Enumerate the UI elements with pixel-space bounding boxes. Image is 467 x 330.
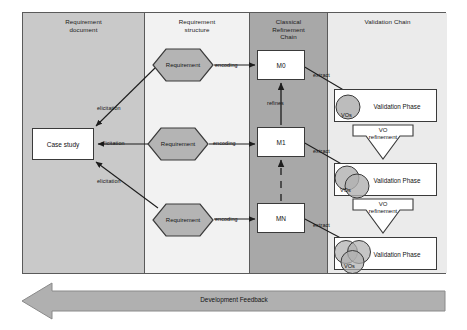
vo-refinement-arrow-1: VO refinement xyxy=(352,124,414,160)
vo-refinement-line1: VO xyxy=(352,201,414,208)
edge-elicitation-top xyxy=(96,68,155,126)
edge-label-encoding-top: encoding xyxy=(215,62,238,68)
validation-phase-3[interactable]: VOs Validation Phase xyxy=(334,237,437,270)
model-box-m0-label: M0 xyxy=(276,62,285,69)
edge-label-elicitation-top: elicitation xyxy=(97,105,121,111)
case-study-box[interactable]: Case study xyxy=(32,128,94,160)
vo-refinement-arrow-1-text: VO refinement xyxy=(352,127,414,142)
requirement-hexagon-1-label: Requirement xyxy=(152,48,214,82)
model-box-m1[interactable]: M1 xyxy=(257,127,305,157)
development-feedback-arrow: Development Feedback xyxy=(22,282,446,320)
validation-phase-2[interactable]: VOs Validation Phase xyxy=(334,163,437,196)
validation-phase-3-label: Validation Phase xyxy=(364,238,430,271)
validation-phase-2-label: Validation Phase xyxy=(364,164,430,197)
edge-label-extract-top: extract xyxy=(313,72,330,78)
edge-label-refines: refines xyxy=(267,100,284,106)
edge-label-extract-mid: extract xyxy=(313,148,330,154)
requirement-hexagon-3[interactable]: Requirement xyxy=(152,203,214,237)
development-feedback-label: Development Feedback xyxy=(22,296,446,303)
vo-refinement-line1: VO xyxy=(352,127,414,134)
vo-cluster-3-label: VOs xyxy=(344,263,355,269)
vo-refinement-arrow-2: VO refinement xyxy=(352,198,414,234)
model-box-mn[interactable]: MN xyxy=(257,203,305,233)
requirement-hexagon-2-label: Requirement xyxy=(147,127,209,161)
edge-label-encoding-mid: encoding xyxy=(213,140,236,146)
diagram-canvas: Requirement document Requirement structu… xyxy=(0,0,467,330)
vo-refinement-line2: refinement xyxy=(352,134,414,141)
validation-phase-1-label: Validation Phase xyxy=(364,90,430,123)
validation-phase-1[interactable]: VOs Validation Phase xyxy=(334,89,437,122)
requirement-hexagon-1[interactable]: Requirement xyxy=(152,48,214,82)
vo-cluster-1-label: VOs xyxy=(341,112,352,118)
vo-refinement-arrow-2-text: VO refinement xyxy=(352,201,414,216)
edge-label-elicitation-bottom: elicitation xyxy=(97,178,121,184)
edge-label-extract-bottom: extract xyxy=(313,222,330,228)
case-study-label: Case study xyxy=(47,141,80,148)
model-box-m0[interactable]: M0 xyxy=(257,50,305,80)
edge-elicitation-bottom xyxy=(96,162,158,208)
vo-refinement-line2: refinement xyxy=(352,208,414,215)
edge-label-encoding-bottom: encoding xyxy=(215,216,238,222)
edge-label-elicitation-mid: elicitation xyxy=(101,140,125,146)
requirement-hexagon-2[interactable]: Requirement xyxy=(147,127,209,161)
model-box-mn-label: MN xyxy=(276,215,286,222)
vo-cluster-2-label: VOs xyxy=(340,187,351,193)
requirement-hexagon-3-label: Requirement xyxy=(152,203,214,237)
model-box-m1-label: M1 xyxy=(276,139,285,146)
